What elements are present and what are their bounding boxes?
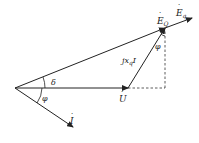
phasor-diagram: EQ · Eq · jxqI U · I · δ φ φ [0,0,199,143]
label-delta: δ [51,78,56,87]
label-phi-origin: φ [42,94,48,103]
label-E-q-dot: · [178,1,180,9]
label-E-q: Eq [175,8,187,20]
label-jxqI: jxqI [120,56,137,67]
label-I-dot: · [71,110,73,118]
vector-E-q [165,18,192,28]
label-phi-top: φ [155,42,161,51]
vector-E-Q [15,28,165,88]
arc-delta [43,77,45,88]
label-U-dot: · [121,88,123,96]
label-E-Q: EQ [156,16,169,27]
arc-phi-top [161,34,165,36]
label-E-Q-dot: · [159,9,161,17]
